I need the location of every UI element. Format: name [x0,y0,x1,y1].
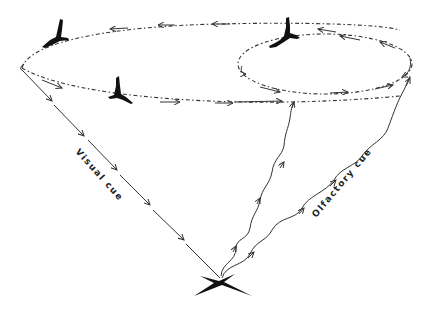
bird-middle [108,76,133,104]
carcass-target-icon [194,274,252,296]
small-flight-circuit [238,34,412,94]
bird-top-right [269,17,300,48]
visual-cue-line [22,70,220,278]
bird-top-left [42,19,69,48]
large-flight-circuit [21,23,400,103]
olfactory-cue-label: Olfactory cue [310,146,374,219]
diagram-canvas: Visual cue Olfactory cue [0,0,441,312]
visual-cue-label: Visual cue [74,147,126,203]
olfactory-cue-lines [221,76,410,278]
diagram-svg: Visual cue Olfactory cue [0,0,441,312]
